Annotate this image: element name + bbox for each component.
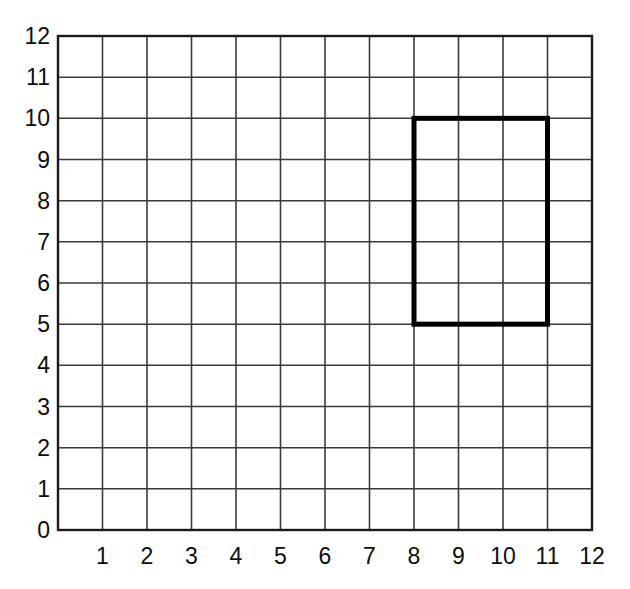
x-axis-tick-1: 1 xyxy=(96,545,109,568)
x-axis-tick-11: 11 xyxy=(536,545,560,568)
x-axis-tick-12: 12 xyxy=(579,545,605,568)
grid-plot-area xyxy=(0,0,630,589)
x-axis-tick-4: 4 xyxy=(230,545,243,568)
x-axis-tick-6: 6 xyxy=(319,545,332,568)
y-axis-tick-0: 0 xyxy=(14,519,50,542)
x-axis-tick-3: 3 xyxy=(185,545,198,568)
y-axis-tick-6: 6 xyxy=(14,272,50,295)
y-axis-tick-3: 3 xyxy=(14,395,50,418)
x-axis-tick-10: 10 xyxy=(490,545,516,568)
y-axis-tick-2: 2 xyxy=(14,436,50,459)
x-axis-tick-8: 8 xyxy=(408,545,421,568)
y-axis-tick-10: 10 xyxy=(14,107,50,130)
x-axis-tick-9: 9 xyxy=(452,545,465,568)
y-axis-tick-1: 1 xyxy=(14,477,50,500)
x-axis-tick-7: 7 xyxy=(363,545,376,568)
x-axis-tick-2: 2 xyxy=(141,545,154,568)
y-axis-tick-7: 7 xyxy=(14,230,50,253)
coordinate-grid-figure: 12 11 10 9 8 7 6 5 4 3 2 1 0 1 2 3 4 5 6… xyxy=(0,0,630,589)
y-axis-tick-9: 9 xyxy=(14,148,50,171)
plotted-rectangle-shape xyxy=(414,118,548,324)
x-axis-tick-5: 5 xyxy=(274,545,287,568)
y-axis-tick-8: 8 xyxy=(14,189,50,212)
y-axis-tick-12: 12 xyxy=(14,25,50,48)
y-axis-tick-11: 11 xyxy=(14,66,50,89)
y-axis-tick-4: 4 xyxy=(14,354,50,377)
y-axis-tick-5: 5 xyxy=(14,313,50,336)
